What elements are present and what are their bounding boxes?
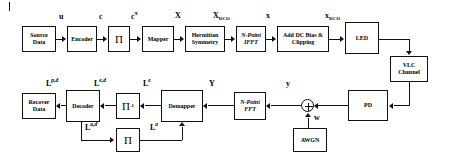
- block-vlc-channel-label: VLC Channel: [398, 62, 420, 75]
- link-deinterleaver-to-decoder: [105, 105, 116, 106]
- arrow-feedback-interleaver-to-demapper: [179, 122, 185, 126]
- signal-label-y: y: [286, 80, 290, 88]
- block-encoder-label: Encoder: [71, 36, 93, 43]
- arrow-ifft-to-dcbias: [272, 36, 276, 42]
- signal-label-L-ed-sup: e,d: [99, 77, 106, 83]
- link-feedback-interleaver-vertical: [182, 127, 183, 140]
- block-add-dc-bias-clipping-label: Add DC Bias & Clipping: [283, 32, 323, 45]
- link-decoder-feedback-horizontal: [81, 140, 111, 141]
- block-demapper: Demapper: [161, 90, 203, 122]
- link-awgn-to-adder: [308, 118, 309, 129]
- link-pd-to-adder: [315, 105, 348, 106]
- link-led-to-vlc-horizontal: [379, 39, 409, 40]
- signal-label-X-DCO-sub: DCO: [219, 16, 230, 21]
- signal-label-x: x: [266, 12, 270, 20]
- summing-junction-plus-horizontal: [305, 106, 313, 107]
- signal-label-x-DCO: xDCO: [325, 12, 340, 20]
- arrow-fft-to-demapper: [203, 103, 207, 109]
- link-adder-to-fft: [271, 105, 301, 106]
- arrow-decoder-to-recover: [56, 103, 60, 109]
- block-diagram-canvas: Source Data Encoder Π Mapper Hermitian S…: [0, 0, 452, 155]
- link-demapper-to-deinterleaver: [145, 105, 161, 106]
- link-vlc-to-pd-vertical: [409, 82, 410, 106]
- block-add-dc-bias-clipping: Add DC Bias & Clipping: [277, 26, 329, 52]
- block-source-data: Source Data: [22, 26, 56, 52]
- block-mapper: Mapper: [142, 26, 174, 52]
- block-n-point-ifft: N-Point IFFT: [236, 26, 266, 52]
- block-awgn-label: AWGN: [301, 137, 320, 144]
- page-margin-tick: [9, 2, 10, 11]
- link-led-to-vlc-vertical: [409, 39, 410, 52]
- arrow-pd-to-adder: [314, 103, 318, 109]
- signal-label-w-base: w: [314, 113, 320, 122]
- arrow-hermitian-to-ifft: [231, 36, 235, 42]
- signal-label-c: c: [99, 13, 103, 21]
- summing-junction: [301, 99, 314, 112]
- signal-label-L-e-sup: e: [148, 77, 150, 83]
- block-interleaver-label: Π: [115, 33, 123, 45]
- link-vlc-to-pd-horizontal: [394, 105, 409, 106]
- block-recover-data-label: Recover Data: [29, 99, 50, 112]
- block-recover-data: Recover Data: [22, 93, 56, 119]
- arrow-interleaver-to-mapper: [137, 36, 141, 42]
- signal-label-y-base: y: [286, 79, 290, 88]
- signal-label-x-DCO-sub: DCO: [329, 16, 340, 21]
- arrow-decoder-feedback-to-interleaver: [110, 137, 114, 143]
- signal-label-u: u: [59, 13, 63, 21]
- block-interleaver-feedback-label: Π: [124, 134, 132, 146]
- arrow-vlc-to-pd: [389, 103, 393, 109]
- block-deinterleaver: Π-1: [116, 93, 140, 119]
- signal-label-L-pd-sup: p,d: [51, 77, 58, 83]
- block-n-point-fft: N-Point FFT: [234, 92, 266, 120]
- block-hermitian-symmetry-label: Hermitian Symmetry: [192, 32, 219, 45]
- signal-label-L-ed: Le,d: [94, 80, 106, 88]
- block-n-point-ifft-label: N-Point IFFT: [241, 32, 261, 45]
- block-interleaver: Π: [108, 26, 130, 52]
- block-interleaver-feedback: Π: [116, 128, 140, 152]
- arrow-adder-to-fft: [266, 103, 270, 109]
- arrow-dcbias-to-led: [340, 36, 344, 42]
- signal-label-L-ad-sup: a,d: [90, 121, 97, 127]
- block-hermitian-symmetry: Hermitian Symmetry: [185, 26, 225, 52]
- block-source-data-label: Source Data: [30, 32, 48, 45]
- arrow-deinterleaver-to-decoder: [100, 103, 104, 109]
- signal-label-w: w: [314, 114, 320, 122]
- signal-label-X: X: [175, 12, 181, 20]
- block-pd: PD: [348, 90, 388, 121]
- block-led: LED: [345, 22, 379, 54]
- link-fft-to-demapper: [208, 105, 234, 106]
- signal-label-L-ad: La,d: [85, 124, 97, 132]
- link-interleaver-to-mapper: [130, 39, 137, 40]
- link-feedback-interleaver-horizontal: [140, 140, 182, 141]
- block-awgn: AWGN: [293, 128, 327, 152]
- link-dcbias-to-led: [329, 39, 340, 40]
- block-decoder-label: Decoder: [72, 103, 93, 110]
- arrow-mapper-to-hermitian: [180, 36, 184, 42]
- arrow-led-to-vlc: [406, 51, 412, 55]
- block-vlc-channel: VLC Channel: [390, 56, 428, 82]
- signal-label-X-DCO-base: X: [213, 11, 219, 20]
- block-decoder: Decoder: [66, 90, 100, 122]
- signal-label-L-a-sup: a: [155, 121, 158, 127]
- signal-label-c-pi-sup: π: [135, 10, 138, 16]
- block-n-point-fft-label: N-Point FFT: [240, 99, 260, 112]
- signal-label-L-e: Le: [143, 80, 151, 88]
- block-mapper-label: Mapper: [148, 36, 169, 43]
- link-decoder-to-recover: [61, 105, 66, 106]
- signal-label-L-a: La: [150, 124, 158, 132]
- arrow-source-to-encoder: [62, 36, 66, 42]
- signal-label-c-pi: cπ: [131, 13, 138, 21]
- block-deinterleaver-sup: -1: [130, 103, 134, 109]
- block-pd-label: PD: [364, 102, 372, 109]
- signal-label-Y-base: Y: [209, 79, 215, 88]
- block-deinterleaver-label: Π: [122, 100, 130, 112]
- block-demapper-label: Demapper: [169, 103, 196, 110]
- signal-label-L-pd: Lp,d: [46, 80, 58, 88]
- signal-label-Y: Y: [209, 80, 215, 88]
- arrow-demapper-to-deinterleaver: [140, 103, 144, 109]
- signal-label-X-DCO: XDCO: [213, 12, 230, 20]
- block-encoder: Encoder: [67, 26, 97, 52]
- link-decoder-feedback-vertical: [81, 122, 82, 140]
- arrow-awgn-to-adder: [305, 113, 311, 117]
- block-led-label: LED: [356, 35, 368, 42]
